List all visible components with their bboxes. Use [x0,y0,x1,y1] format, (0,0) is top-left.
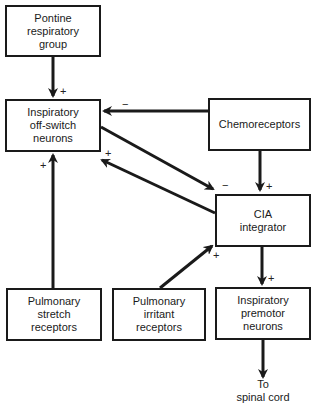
node-text: stretch [28,308,81,321]
node-text: receptors [133,321,186,334]
arrow-cia-to-offswitch [102,160,215,213]
sign-stretch-to-offswitch: + [40,160,46,171]
note-text: To [228,378,298,391]
node-text: premotor [237,307,288,320]
node-cia-integrator: CIA integrator [215,194,311,247]
node-pontine-respiratory-group: Pontine respiratory group [5,5,101,57]
sign-cia-to-offswitch: + [105,148,111,159]
node-text: receptors [28,321,81,334]
node-text: off-switch [27,119,78,132]
node-text: Chemoreceptors [219,118,300,131]
node-text: respiratory [27,25,79,38]
node-text: neurons [237,320,288,333]
node-text: CIA [240,208,286,221]
node-text: Inspiratory [237,294,288,307]
node-inspiratory-premotor-neurons: Inspiratory premotor neurons [215,287,311,340]
arrow-offswitch-to-cia [101,127,213,189]
node-text: group [27,38,79,51]
sign-chemo-to-offswitch: − [122,99,128,110]
node-pulmonary-irritant-receptors: Pulmonary irritant receptors [112,288,206,341]
arrow-irritant-to-cia [160,246,212,288]
node-chemoreceptors: Chemoreceptors [208,98,311,151]
output-note-spinal-cord: To spinal cord [228,378,298,404]
sign-chemo-to-cia: + [266,181,272,192]
node-inspiratory-offswitch-neurons: Inspiratory off-switch neurons [5,99,101,152]
sign-offswitch-to-cia: − [222,180,228,191]
node-pulmonary-stretch-receptors: Pulmonary stretch receptors [6,288,102,341]
node-text: Pontine [27,12,79,25]
note-text: spinal cord [228,391,298,404]
node-text: Pulmonary [133,295,186,308]
sign-pontine-to-offswitch: + [60,86,66,97]
node-text: neurons [27,132,78,145]
node-text: irritant [133,308,186,321]
sign-cia-to-premotor: + [268,273,274,284]
node-text: Inspiratory [27,106,78,119]
sign-irritant-to-cia: + [213,250,219,261]
node-text: integrator [240,221,286,234]
node-text: Pulmonary [28,295,81,308]
